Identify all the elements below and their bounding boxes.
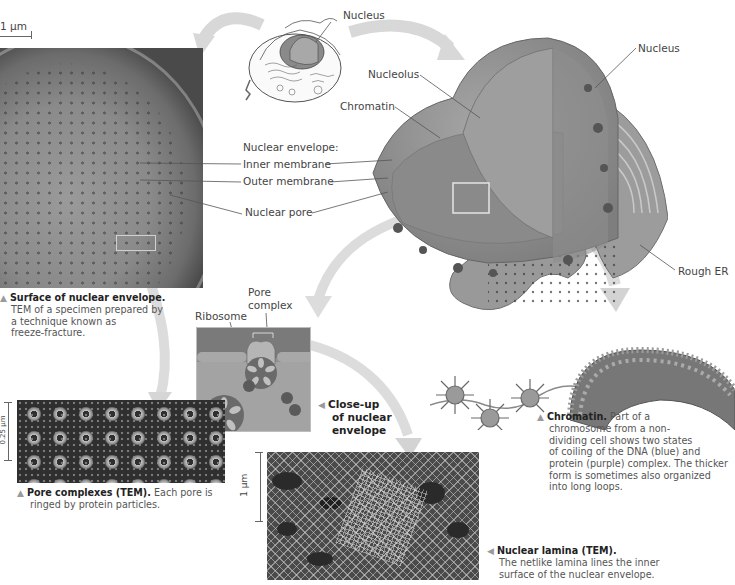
triangle-up-icon: ▲ <box>17 488 24 498</box>
label-pore-complex-2: complex <box>248 299 293 311</box>
label-rough-er: Rough ER <box>678 265 729 277</box>
label-pore-complex-1: Pore <box>248 286 271 298</box>
caption-chromatin: ▲Chromatin. Part of a chromosome from a … <box>537 411 732 493</box>
label-sketch-nucleus: Nucleus <box>343 9 385 21</box>
nucleosome-fibers <box>436 376 549 430</box>
cell-sketch <box>240 10 350 105</box>
triangle-left-icon: ◀ <box>318 400 325 410</box>
caption-lamina: ◀Nuclear lamina (TEM). The netlike lamin… <box>487 545 732 580</box>
scale-bar-label: 1 µm <box>0 20 27 32</box>
scale-bar-surface: 1 µm <box>0 20 34 38</box>
label-ribosome: Ribosome <box>195 310 247 322</box>
triangle-up-icon: ▲ <box>0 293 7 303</box>
selection-box <box>116 235 156 251</box>
triangle-up-icon: ▲ <box>537 412 544 422</box>
label-chromatin: Chromatin <box>340 100 395 112</box>
ribosome <box>243 380 255 392</box>
triangle-left-icon: ◀ <box>487 546 494 556</box>
label-envelope-heading: Nuclear envelope: <box>243 141 339 153</box>
surface-micrograph <box>0 48 203 288</box>
scale-bar-pores: 0.25 µm <box>0 402 12 462</box>
lamina-micrograph <box>267 452 479 580</box>
label-nuclear-pore: Nuclear pore <box>245 206 312 218</box>
caption-closeup: ◀Close-up of nuclear envelope <box>318 398 392 437</box>
sketch-nucleus <box>280 35 324 69</box>
label-nucleus: Nucleus <box>638 42 680 54</box>
scale-bar-lamina: 1 µm <box>255 452 267 524</box>
pores-micrograph <box>17 400 225 483</box>
caption-surface: ▲Surface of nuclear envelope. TEM of a s… <box>0 292 200 339</box>
label-inner-membrane: Inner membrane <box>243 158 331 170</box>
caption-pores: ▲Pore complexes (TEM). Each pore is ring… <box>17 487 247 511</box>
label-nucleolus: Nucleolus <box>368 68 419 80</box>
label-outer-membrane: Outer membrane <box>243 175 334 187</box>
